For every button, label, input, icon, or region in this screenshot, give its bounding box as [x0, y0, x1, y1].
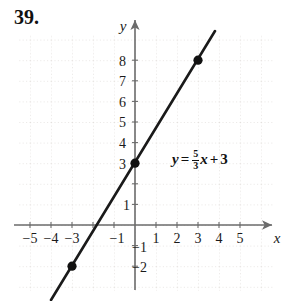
x-tick-label-neg1: −1	[110, 231, 125, 246]
x-tick-label-neg5: −5	[23, 231, 38, 246]
y-tick-label-6: 6	[119, 95, 126, 110]
x-tick-label-neg3: −3	[65, 231, 80, 246]
data-point-0-3	[130, 159, 139, 168]
data-point-3-8	[193, 56, 202, 65]
equation-variable: x	[200, 151, 208, 167]
y-tick-label-neg1: −1	[132, 240, 147, 255]
coordinate-plane: 8 7 6 5 4 3 1 −1 −2 −5 −4 −3 −1 1 2 3 4 …	[0, 0, 294, 301]
data-point-neg3-neg2	[67, 262, 76, 271]
y-tick-label-1: 1	[123, 198, 130, 213]
equation-annotation: y=53x+3	[172, 150, 228, 172]
equation-constant: 3	[220, 151, 228, 167]
fraction-numerator: 5	[192, 149, 199, 160]
equation-fraction: 53	[192, 149, 199, 171]
y-tick-label-3: 3	[119, 157, 126, 172]
x-tick-label-5: 5	[237, 231, 244, 246]
equation-lhs: y	[172, 151, 179, 167]
y-axis-label: y	[118, 18, 127, 34]
equation-equals: =	[181, 151, 190, 167]
x-tick-label-3: 3	[195, 231, 202, 246]
x-tick-label-2: 2	[174, 231, 181, 246]
x-tick-label-4: 4	[216, 231, 223, 246]
x-tick-label-neg4: −4	[44, 231, 59, 246]
y-tick-label-7: 7	[119, 74, 126, 89]
graph-figure: 39.	[0, 0, 294, 301]
fraction-denominator: 3	[192, 160, 199, 172]
y-tick-label-5: 5	[119, 115, 126, 130]
y-tick-label-8: 8	[119, 54, 126, 69]
x-tick-label-1: 1	[153, 231, 160, 246]
y-tick-label-neg2: −2	[132, 260, 147, 275]
x-axis-label: x	[273, 230, 281, 246]
y-tick-label-4: 4	[119, 136, 126, 151]
equation-plus: +	[210, 151, 219, 167]
